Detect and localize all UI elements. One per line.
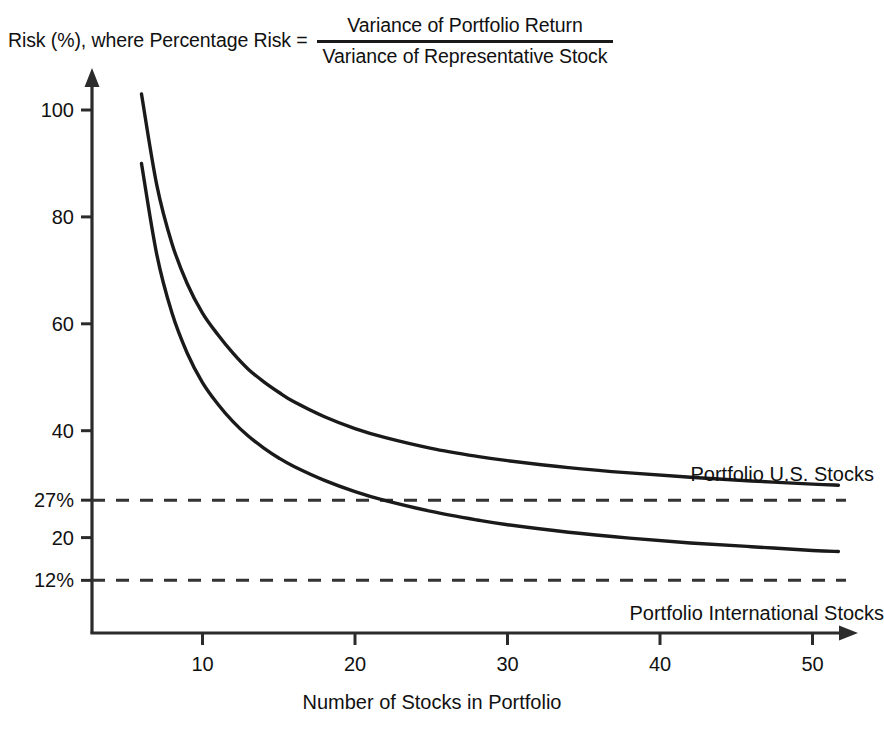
y-tick-label-40: 40: [52, 419, 74, 442]
x-tick-label-40: 40: [649, 653, 671, 676]
y-tick-label-100: 100: [41, 99, 74, 122]
series-label-us-stocks: Portfolio U.S. Stocks: [691, 463, 874, 486]
y-axis-arrow-icon: [85, 68, 100, 87]
x-axis-arrow-icon: [839, 626, 858, 641]
axes-layer: [81, 68, 858, 645]
x-tick-label-50: 50: [801, 653, 823, 676]
y-tick-label-60: 60: [52, 312, 74, 335]
asymptote-layer: [92, 500, 846, 580]
y-tick-label-20: 20: [52, 526, 74, 549]
x-axis-title: Number of Stocks in Portfolio: [303, 691, 562, 714]
y-tick-label-12pct: 12%: [34, 569, 74, 592]
y-tick-label-80: 80: [52, 205, 74, 228]
x-tick-label-10: 10: [191, 653, 213, 676]
y-tick-label-27pct: 27%: [34, 489, 74, 512]
x-tick-label-20: 20: [344, 653, 366, 676]
series-curve-international-stocks: [142, 163, 839, 551]
series-curve-us-stocks: [142, 94, 839, 485]
x-tick-label-30: 30: [496, 653, 518, 676]
series-label-international-stocks: Portfolio International Stocks: [630, 602, 884, 625]
